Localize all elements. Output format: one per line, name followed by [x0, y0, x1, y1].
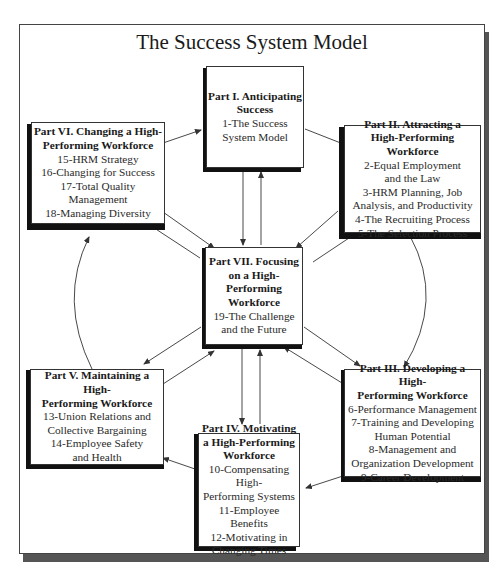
- node-heading: Performing Workforce: [32, 139, 164, 153]
- node-heading: on a High-: [206, 269, 302, 283]
- node-heading: Part III. Developing a High-: [345, 362, 480, 389]
- node-item: 7-Training and Developing: [345, 416, 480, 430]
- node-heading: Performing: [206, 282, 302, 296]
- arrow-p2-to-p3: [404, 236, 426, 367]
- node-item: and the Future: [206, 323, 302, 337]
- node-heading: Workforce: [199, 449, 299, 463]
- node-item: 18-Managing Diversity: [32, 207, 164, 221]
- node-part-4: Part IV. Motivating a High-Performing Wo…: [198, 433, 300, 547]
- node-heading: High-Performing Workforce: [345, 131, 480, 158]
- arrow-p5-to-p6: [74, 237, 92, 369]
- node-item: Changing Times: [199, 544, 299, 558]
- node-item: and the Law: [345, 172, 480, 186]
- node-heading: Part II. Attracting a: [345, 118, 480, 132]
- node-item: 9-Career Development: [345, 471, 480, 485]
- node-heading: Performing Workforce: [345, 389, 480, 403]
- node-heading: Part IV. Motivating: [199, 422, 299, 436]
- node-heading: Performing Workforce: [31, 397, 163, 411]
- node-item: and Health: [31, 451, 163, 465]
- arrow-p4-to-p5: [163, 458, 195, 469]
- arrow-p3-to-p4: [306, 475, 346, 488]
- node-item: 16-Changing for Success: [32, 166, 164, 180]
- node-heading: Workforce: [206, 296, 302, 310]
- node-item: 4-The Recruiting Process: [345, 213, 480, 227]
- node-item: 15-HRM Strategy: [32, 153, 164, 167]
- node-heading: Part V. Maintaining a High-: [31, 369, 163, 396]
- node-item: 14-Employee Safety: [31, 437, 163, 451]
- node-item: 17-Total Quality Management: [32, 180, 164, 207]
- node-item: 5-The Selection Process: [345, 227, 480, 241]
- arrow-p3-to-p7: [284, 347, 342, 383]
- node-part-6: Part VI. Changing a High- Performing Wor…: [31, 122, 165, 224]
- node-item: 12-Motivating in: [199, 531, 299, 545]
- node-heading: Success: [207, 103, 303, 117]
- node-item: Collective Bargaining: [31, 424, 163, 438]
- node-part-3: Part III. Developing a High- Performing …: [344, 369, 481, 477]
- node-item: 6-Performance Management: [345, 403, 480, 417]
- arrow-p2-to-p7: [296, 211, 338, 248]
- node-item: 2-Equal Employment: [345, 159, 480, 173]
- arrow-p7-to-p5: [144, 327, 201, 364]
- node-item: Organization Development: [345, 457, 480, 471]
- arrow-p5-to-p7: [163, 351, 214, 384]
- arrow-p7-to-p3: [304, 327, 360, 366]
- node-heading: a High-Performing: [199, 436, 299, 450]
- node-heading: Part I. Anticipating: [207, 90, 303, 104]
- node-part-7: Part VII. Focusing on a High- Performing…: [205, 247, 303, 345]
- node-item: 13-Union Relations and: [31, 410, 163, 424]
- node-part-5: Part V. Maintaining a High- Performing W…: [30, 369, 164, 465]
- node-part-1: Part I. Anticipating Success 1-The Succe…: [206, 66, 304, 168]
- node-item: 1-The Success: [207, 117, 303, 131]
- node-item: System Model: [207, 131, 303, 145]
- node-part-2: Part II. Attracting a High-Performing Wo…: [344, 125, 481, 233]
- node-heading: Part VI. Changing a High-: [32, 125, 164, 139]
- node-item: Human Potential: [345, 430, 480, 444]
- node-item: 10-Compensating High-: [199, 463, 299, 490]
- arrow-p6-to-p7: [163, 212, 214, 248]
- node-item: 19-The Challenge: [206, 310, 302, 324]
- node-heading: Part VII. Focusing: [206, 255, 302, 269]
- arrow-p6-to-p1: [163, 130, 201, 143]
- node-item: Analysis, and Productivity: [345, 199, 480, 213]
- node-item: 11-Employee Benefits: [199, 504, 299, 531]
- node-item: 3-HRM Planning, Job: [345, 186, 480, 200]
- node-item: Performing Systems: [199, 490, 299, 504]
- node-item: 8-Management and: [345, 443, 480, 457]
